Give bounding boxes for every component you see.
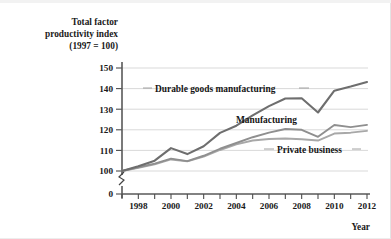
y-tick-label-110: 110 <box>100 146 114 156</box>
x-tick-label-2010: 2010 <box>325 201 344 211</box>
x-tick-label-2008: 2008 <box>292 201 311 211</box>
x-tick-label-2012: 2012 <box>358 201 377 211</box>
series-label-manufacturing: Manufacturing <box>236 115 297 125</box>
series-label-durable-goods-manufacturing: Durable goods manufacturing <box>155 84 276 94</box>
y-axis-title-line-2: productivity index <box>45 29 118 39</box>
x-tick-label-1998: 1998 <box>129 201 148 211</box>
y-axis-tick-labels: 150 140 130 120 110 100 0 <box>99 63 113 199</box>
x-tick-label-2002: 2002 <box>194 201 213 211</box>
chart-figure: Total factor productivity index (1997 = … <box>0 0 391 239</box>
x-axis-tick-labels: 1998 2000 2002 2004 2006 2008 2010 2012 <box>129 201 376 211</box>
y-axis-break-icon <box>119 172 124 185</box>
y-tick-label-120: 120 <box>99 125 113 135</box>
y-axis-title-line-3: (1997 = 100) <box>69 41 118 52</box>
line-chart: Total factor productivity index (1997 = … <box>0 0 391 239</box>
x-tick-label-2004: 2004 <box>227 201 246 211</box>
x-tick-label-2006: 2006 <box>260 201 279 211</box>
y-tick-label-0: 0 <box>108 189 113 199</box>
series-annotations: Durable goods manufacturing Manufacturin… <box>143 84 361 155</box>
y-tick-label-130: 130 <box>99 105 113 115</box>
x-axis-title: Year <box>351 222 370 232</box>
y-tick-label-100: 100 <box>99 166 113 176</box>
series-label-private-business: Private business <box>277 145 342 155</box>
series-line-durable-goods-manufacturing <box>122 82 367 171</box>
series-group <box>122 82 367 171</box>
x-tick-label-2000: 2000 <box>162 201 181 211</box>
y-axis-title-line-1: Total factor <box>72 17 118 27</box>
y-tick-label-150: 150 <box>99 63 113 73</box>
y-tick-label-140: 140 <box>99 84 113 94</box>
